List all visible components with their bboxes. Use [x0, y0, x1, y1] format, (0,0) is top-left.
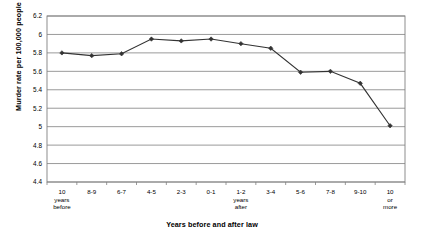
- plot-area: [0, 0, 424, 238]
- murder-rate-line-chart: Murder rate per 100,000 people Years bef…: [0, 0, 424, 238]
